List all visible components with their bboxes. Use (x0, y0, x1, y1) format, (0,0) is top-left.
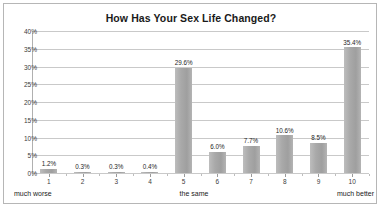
gridline (32, 120, 369, 121)
x-axis-tick-label: 4 (138, 178, 162, 185)
bar-value-label: 10.6% (276, 127, 294, 134)
gridline (32, 49, 369, 50)
y-axis-tick-label: 0% (7, 170, 37, 177)
bar[interactable] (108, 172, 125, 174)
bar-value-label: 0.3% (109, 163, 123, 170)
chart-title: How Has Your Sex Life Changed? (4, 12, 378, 24)
gridline (32, 31, 369, 32)
x-axis-tick-mark (116, 174, 117, 177)
y-axis-tick-label: 20% (7, 99, 37, 106)
bar-group: 8.5% (302, 134, 336, 173)
bar[interactable] (74, 172, 91, 174)
bar-value-label: 1.2% (42, 160, 56, 167)
x-axis-tick-mark (150, 174, 151, 177)
x-axis-tick-mark (217, 174, 218, 177)
x-axis-minor-tick (99, 174, 100, 176)
chart-screenshot: How Has Your Sex Life Changed? 1.2%0.3%0… (0, 0, 380, 207)
x-axis-minor-tick (369, 174, 370, 176)
x-axis-tick-label: 8 (273, 178, 297, 185)
x-axis-minor-tick (201, 174, 202, 176)
y-axis-tick-label: 40% (7, 28, 37, 35)
bar-value-label: 7.7% (244, 137, 258, 144)
bar-value-label: 6.0% (210, 143, 224, 150)
bar[interactable] (243, 146, 260, 173)
plot-inner: 1.2%0.3%0.3%0.4%29.6%6.0%7.7%10.6%8.5%35… (32, 32, 369, 174)
bar-value-label: 8.5% (311, 134, 325, 141)
bar-value-label: 0.4% (143, 163, 157, 170)
x-axis-tick-label: 7 (239, 178, 263, 185)
category-caption-right: much better (337, 190, 374, 197)
bar-value-label: 35.4% (343, 39, 361, 46)
chart-frame: How Has Your Sex Life Changed? 1.2%0.3%0… (3, 3, 377, 204)
gridline (32, 67, 369, 68)
bar-group: 7.7% (234, 137, 268, 173)
bar-group: 1.2% (32, 160, 66, 173)
y-axis-tick-label: 10% (7, 134, 37, 141)
x-axis-tick-label: 1 (37, 178, 61, 185)
bar[interactable] (344, 47, 361, 173)
y-axis-tick-label: 5% (7, 152, 37, 159)
x-axis-tick-mark (285, 174, 286, 177)
gridline (32, 102, 369, 103)
bar-group: 29.6% (167, 59, 201, 173)
category-caption-middle: the same (10, 190, 378, 197)
bar[interactable] (276, 135, 293, 173)
x-axis-minor-tick (133, 174, 134, 176)
x-axis-minor-tick (234, 174, 235, 176)
x-axis-tick-mark (251, 174, 252, 177)
x-axis-tick-label: 3 (104, 178, 128, 185)
bar-group: 0.3% (66, 163, 100, 173)
bar[interactable] (40, 169, 57, 173)
x-axis-tick-label: 5 (172, 178, 196, 185)
bar[interactable] (141, 172, 158, 174)
x-axis-tick-mark (318, 174, 319, 177)
bar-group: 10.6% (268, 127, 302, 173)
bar[interactable] (175, 68, 192, 173)
bar[interactable] (209, 152, 226, 173)
x-axis-tick-label: 9 (306, 178, 330, 185)
bar-group: 6.0% (201, 143, 235, 173)
plot-area: 1.2%0.3%0.3%0.4%29.6%6.0%7.7%10.6%8.5%35… (32, 32, 369, 174)
x-axis-minor-tick (335, 174, 336, 176)
x-axis-tick-mark (49, 174, 50, 177)
x-axis-tick-mark (184, 174, 185, 177)
gridline (32, 84, 369, 85)
x-axis-tick-label: 2 (71, 178, 95, 185)
bar-value-label: 29.6% (175, 59, 193, 66)
category-captions: much worse the same much better (10, 190, 378, 204)
y-axis-tick-label: 15% (7, 116, 37, 123)
y-axis-tick-label: 35% (7, 45, 37, 52)
x-axis-minor-tick (167, 174, 168, 176)
x-axis-minor-tick (268, 174, 269, 176)
bar[interactable] (310, 143, 327, 173)
bar-group: 0.4% (133, 163, 167, 173)
bar-value-label: 0.3% (75, 163, 89, 170)
x-axis-minor-tick (66, 174, 67, 176)
x-axis-minor-tick (302, 174, 303, 176)
x-axis-tick-mark (352, 174, 353, 177)
y-axis-tick-label: 25% (7, 81, 37, 88)
bar-group: 35.4% (335, 39, 369, 173)
x-axis-tick-mark (83, 174, 84, 177)
bar-group: 0.3% (99, 163, 133, 173)
x-axis-tick-label: 6 (205, 178, 229, 185)
y-axis-tick-label: 30% (7, 63, 37, 70)
x-axis: 12345678910 (32, 174, 369, 190)
x-axis-tick-label: 10 (340, 178, 364, 185)
